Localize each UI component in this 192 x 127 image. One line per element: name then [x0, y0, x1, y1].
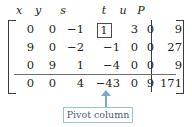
matrix-cell: 0	[136, 38, 154, 56]
matrix-row: 0 0 −1 1 3 0 9	[8, 20, 184, 38]
matrix-cell: 0	[34, 38, 56, 56]
matrix-rhs-cell: 171	[154, 74, 182, 92]
column-header-u: u	[115, 4, 131, 17]
matrix-cell: −2	[56, 38, 84, 56]
matrix-body: 0 0 −1 1 3 0 9 9 0 −2 −1 0 0 27 0 9 1 −4…	[8, 20, 184, 92]
pivot-column-callout: Pivot column	[63, 107, 133, 123]
matrix-cell: 9	[12, 38, 34, 56]
column-header-x: x	[11, 4, 27, 17]
pivot-element-cell: 1	[88, 20, 120, 38]
matrix-cell: 0	[136, 56, 154, 74]
matrix-cell: 0	[34, 74, 56, 92]
column-header-s: s	[55, 4, 71, 17]
matrix-cell: 9	[34, 56, 56, 74]
matrix-cell: 0	[12, 56, 34, 74]
pivot-column-arrow	[105, 95, 107, 107]
matrix-cell: 0	[136, 20, 154, 38]
column-header-t: t	[96, 4, 112, 17]
pivot-element-value: 1	[97, 23, 112, 38]
matrix-cell: 0	[34, 20, 56, 38]
matrix-cell: −4	[88, 56, 120, 74]
matrix-cell: 9	[136, 74, 154, 92]
matrix-cell: 0	[12, 20, 34, 38]
matrix-row: 0 9 1 −4 0 0 9	[8, 56, 184, 74]
matrix-cell: 1	[56, 56, 84, 74]
matrix-rhs-cell: 27	[154, 38, 182, 56]
matrix-cell: −1	[56, 20, 84, 38]
matrix-cell: 4	[56, 74, 84, 92]
objective-row: 0 0 4 −43 0 9 171	[8, 74, 184, 92]
matrix-rhs-cell: 9	[154, 56, 182, 74]
matrix-rhs-cell: 9	[154, 20, 182, 38]
matrix-cell: 0	[12, 74, 34, 92]
matrix-cell: −1	[88, 38, 120, 56]
matrix-row: 9 0 −2 −1 0 0 27	[8, 38, 184, 56]
column-header-P: P	[133, 4, 149, 17]
simplex-tableau-figure: x y s t u P 0 0 −1 1 3 0 9 9 0 −2 −1 0 0…	[0, 0, 192, 127]
column-header-y: y	[30, 4, 46, 17]
